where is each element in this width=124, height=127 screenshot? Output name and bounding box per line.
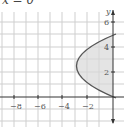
x-tick-label: −4 (58, 102, 70, 111)
y-tick-label: 2 (104, 68, 109, 77)
parabola-chart: −8 −6 −4 −2 6 4 2 y (0, 0, 124, 127)
x-tick-label: −6 (34, 102, 46, 111)
y-tick-label: 6 (104, 18, 109, 27)
x-tick-label: −8 (10, 102, 22, 111)
y-axis-label: y (105, 7, 111, 16)
x-tick-label: −2 (82, 102, 94, 111)
y-tick-label: 4 (104, 43, 109, 52)
y-axis-arrow-icon (111, 10, 115, 15)
